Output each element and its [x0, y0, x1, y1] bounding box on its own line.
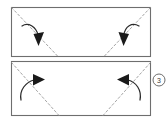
diagram-canvas: 3 — [0, 0, 166, 127]
top-panel — [12, 8, 151, 57]
fold-diagram: 3 — [0, 0, 166, 127]
step-marker: 3 — [153, 74, 165, 86]
top-panel-outline — [12, 8, 151, 57]
step-marker-number: 3 — [157, 77, 161, 84]
bottom-panel-outline — [12, 62, 151, 116]
bottom-panel — [12, 62, 151, 116]
